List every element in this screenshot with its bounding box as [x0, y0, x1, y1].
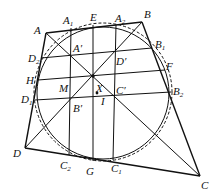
chord-d2b1	[41, 48, 152, 58]
label-b1: B1	[155, 38, 165, 52]
label-x: X	[95, 82, 104, 94]
side-bc	[142, 22, 200, 176]
label-d: D	[12, 147, 21, 159]
label-h: H	[25, 74, 35, 86]
label-b: B	[144, 8, 151, 20]
label-b2: B2	[173, 85, 184, 99]
label-bp: B′	[73, 102, 83, 114]
label-m: M	[58, 82, 69, 94]
diagram-shapes	[25, 22, 200, 176]
label-f: F	[165, 60, 173, 72]
label-i: I	[100, 95, 106, 107]
label-dp: D′	[115, 55, 127, 67]
label-cp: C′	[116, 84, 126, 96]
label-a1: A1	[62, 14, 73, 28]
dashed-circle	[34, 23, 172, 161]
label-d1: D1	[20, 93, 32, 107]
label-a2: A2	[114, 12, 126, 26]
chord-a1c2	[69, 28, 71, 155]
label-ap: A′	[72, 42, 83, 54]
label-e: E	[89, 11, 97, 23]
label-g: G	[86, 165, 94, 177]
label-c: C	[201, 179, 209, 191]
geometry-diagram: AA1EA2BB1FB2CC1GC2DD1HD2A′D′B′C′MXI	[0, 0, 221, 196]
label-a: A	[33, 24, 41, 36]
chord-hf	[38, 70, 165, 80]
label-c2: C2	[60, 159, 71, 173]
label-d2: D2	[27, 52, 40, 66]
label-c1: C1	[111, 162, 122, 176]
center-point	[91, 74, 95, 78]
side-da	[25, 33, 46, 148]
